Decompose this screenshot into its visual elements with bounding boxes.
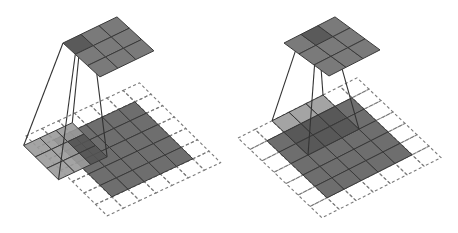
padding-cell xyxy=(238,129,267,149)
padding-cell xyxy=(123,83,151,102)
diagram-stage xyxy=(0,0,458,233)
padding-cell xyxy=(96,197,124,216)
output-grid xyxy=(284,17,380,76)
output-grid xyxy=(63,17,154,77)
panel-same-padding xyxy=(238,17,441,218)
padding-cell xyxy=(412,146,441,166)
convolution-diagram xyxy=(0,0,458,233)
padding-cell xyxy=(340,78,369,98)
panel-full-padding xyxy=(24,17,221,216)
padding-cell xyxy=(193,151,221,170)
padding-cell xyxy=(310,198,339,218)
